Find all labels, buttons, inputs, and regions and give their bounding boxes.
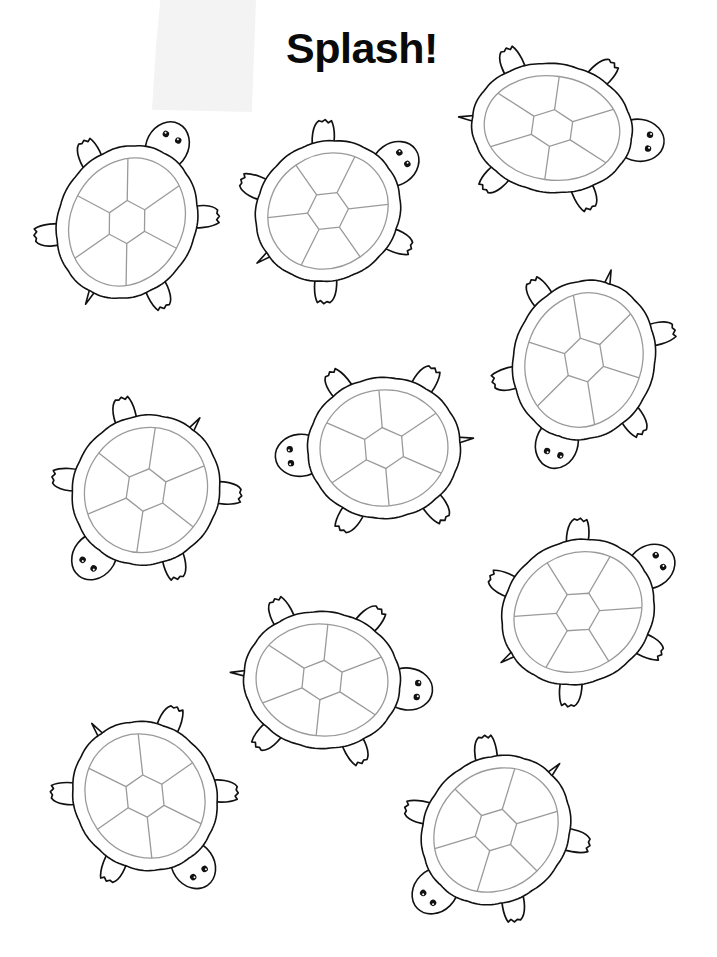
turtle-4 [467, 244, 694, 494]
turtle-9 [23, 673, 278, 934]
turtle-6 [268, 355, 481, 543]
shell-outline [492, 262, 676, 458]
turtle-8 [222, 587, 441, 775]
turtle-1 [10, 85, 254, 343]
turtle-5 [10, 365, 270, 629]
shell-outline [474, 511, 682, 714]
turtle-7 [455, 481, 717, 734]
shell-outline [30, 121, 225, 324]
turtle-illustrations [0, 0, 717, 957]
turtle-10 [357, 704, 622, 957]
turtle-2 [208, 81, 464, 331]
turtle-3 [448, 35, 675, 223]
